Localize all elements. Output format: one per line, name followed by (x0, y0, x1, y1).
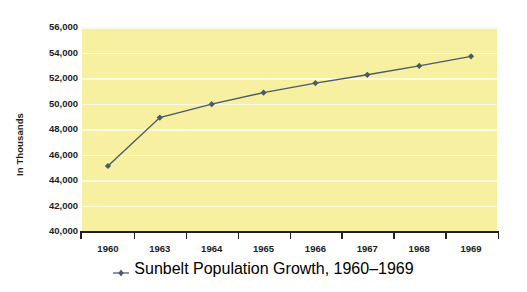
x-axis (80, 231, 499, 240)
x-axis-cap-left (80, 231, 82, 239)
series-sunbelt-population-growth (82, 27, 497, 231)
x-axis-tick (290, 231, 292, 239)
x-axis-tick-labels: 19601963196419651966196719681969 (82, 243, 497, 257)
x-axis-tick-label: 1963 (149, 243, 170, 254)
x-axis-tick-label: 1965 (253, 243, 274, 254)
data-point-marker (468, 53, 474, 59)
x-axis-tick (238, 231, 240, 239)
x-axis-tick-label: 1967 (357, 243, 378, 254)
chart-legend: Sunbelt Population Growth, 1960–1969 (0, 261, 527, 277)
data-point-marker (260, 90, 266, 96)
series-line (108, 56, 471, 166)
x-axis-tick-label: 1960 (97, 243, 118, 254)
y-axis-tick-label: 54,000 (30, 48, 78, 58)
x-axis-tick-label: 1964 (201, 243, 222, 254)
data-point-marker (416, 63, 422, 69)
x-axis-tick (186, 231, 188, 239)
x-axis-cap-right (498, 231, 500, 239)
y-axis-tick-label: 44,000 (30, 175, 78, 185)
data-point-marker (209, 101, 215, 107)
x-axis-tick-label: 1966 (305, 243, 326, 254)
y-axis-tick-label: 50,000 (30, 99, 78, 109)
y-axis-title-label: In Thousands (14, 113, 25, 176)
y-axis-tick-label: 52,000 (30, 73, 78, 83)
y-axis-tick-label: 42,000 (30, 201, 78, 211)
x-axis-tick (134, 231, 136, 239)
x-axis-tick (393, 231, 395, 239)
legend-marker-icon (113, 264, 129, 274)
x-axis-tick-label: 1968 (409, 243, 430, 254)
plot-area (82, 27, 497, 231)
x-axis-tick (445, 231, 447, 239)
data-point-marker (312, 80, 318, 86)
x-axis-tick (341, 231, 343, 239)
data-point-marker (364, 72, 370, 78)
y-axis-tick-label: 46,000 (30, 150, 78, 160)
y-axis-tick-label: 48,000 (30, 124, 78, 134)
y-axis-tick-label: 56,000 (30, 22, 78, 32)
line-chart-figure: In Thousands 56,00054,00052,00050,00048,… (0, 0, 527, 292)
legend-entry-label: Sunbelt Population Growth, 1960–1969 (134, 260, 413, 278)
x-axis-tick-label: 1969 (460, 243, 481, 254)
y-axis-tick-labels: 56,00054,00052,00050,00048,00046,00044,0… (30, 27, 78, 231)
y-axis-tick-label: 40,000 (30, 226, 78, 236)
